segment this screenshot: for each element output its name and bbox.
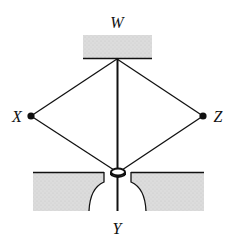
label-z: Z xyxy=(214,108,224,125)
string-w-to-x xyxy=(31,59,117,116)
bottom-support-left xyxy=(33,172,104,211)
ring xyxy=(111,169,125,178)
bottom-support-right xyxy=(131,172,204,211)
pulley-string-diagram: W X Z Y xyxy=(0,0,237,245)
string-x-to-ring xyxy=(31,116,114,170)
label-w: W xyxy=(110,14,125,31)
mass-z-dot xyxy=(199,112,206,119)
label-x: X xyxy=(11,108,23,125)
string-w-to-z xyxy=(117,59,203,116)
top-support-block xyxy=(83,35,152,59)
string-z-to-ring xyxy=(122,116,203,170)
label-y: Y xyxy=(113,220,124,237)
mass-x-dot xyxy=(27,112,34,119)
